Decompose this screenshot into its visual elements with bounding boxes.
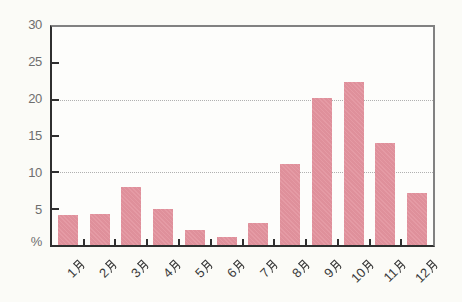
bar-11月: [375, 143, 395, 245]
bar-12月: [407, 193, 427, 245]
x-tick-11: [400, 239, 402, 245]
gridline-20: [52, 100, 433, 101]
x-axis-label-7月: 7: [239, 256, 281, 298]
x-tick-4: [178, 239, 180, 245]
bar-chart-figure: 51015202530% 1 2 3 4 5 6 7 8: [0, 0, 462, 302]
x-tick-10: [369, 239, 371, 245]
bar-8月: [280, 164, 300, 245]
y-axis-label-5: 5: [0, 203, 42, 217]
y-axis-unit-label: %: [0, 235, 42, 249]
x-tick-1: [83, 239, 85, 245]
x-tick-8: [305, 239, 307, 245]
bar-6月: [217, 237, 237, 245]
x-tick-3: [146, 239, 148, 245]
y-axis-label-30: 30: [0, 18, 42, 32]
y-tick-20: [52, 99, 59, 101]
bar-7月: [248, 223, 268, 245]
y-tick-5: [52, 208, 59, 210]
y-axis-label-25: 25: [0, 55, 42, 69]
y-tick-15: [52, 135, 59, 137]
plot-area: [50, 25, 435, 247]
x-tick-5: [210, 239, 212, 245]
x-axis-label-6月: 6: [207, 256, 249, 298]
x-tick-9: [337, 239, 339, 245]
bar-2月: [90, 214, 110, 245]
bar-5月: [185, 230, 205, 245]
bar-4月: [153, 209, 173, 245]
bar-3月: [121, 187, 141, 245]
x-tick-2: [114, 239, 116, 245]
bar-1月: [58, 215, 78, 245]
bar-9月: [312, 98, 332, 246]
x-tick-7: [273, 239, 275, 245]
bar-10月: [344, 82, 364, 246]
y-axis-label-15: 15: [0, 129, 42, 143]
y-axis-label-20: 20: [0, 92, 42, 106]
y-axis-label-10: 10: [0, 166, 42, 180]
y-tick-25: [52, 62, 59, 64]
y-tick-10: [52, 171, 59, 173]
x-tick-6: [242, 239, 244, 245]
